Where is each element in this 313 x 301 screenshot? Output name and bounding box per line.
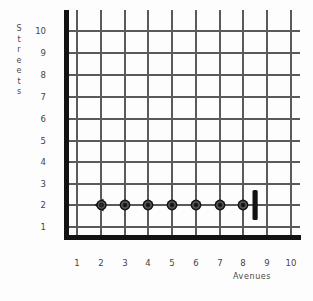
marker-dot xyxy=(120,200,131,211)
marker-end-bar xyxy=(253,190,258,220)
graph-figure: S t r e e t s Avenues 10 9 8 7 6 5 4 3 2… xyxy=(0,0,313,301)
marker-dot xyxy=(238,200,249,211)
marker-dot xyxy=(191,200,202,211)
marker-dot xyxy=(167,200,178,211)
marker-dot xyxy=(215,200,226,211)
marker-dot xyxy=(143,200,154,211)
data-markers xyxy=(0,0,313,301)
marker-start-triangle xyxy=(95,199,107,212)
